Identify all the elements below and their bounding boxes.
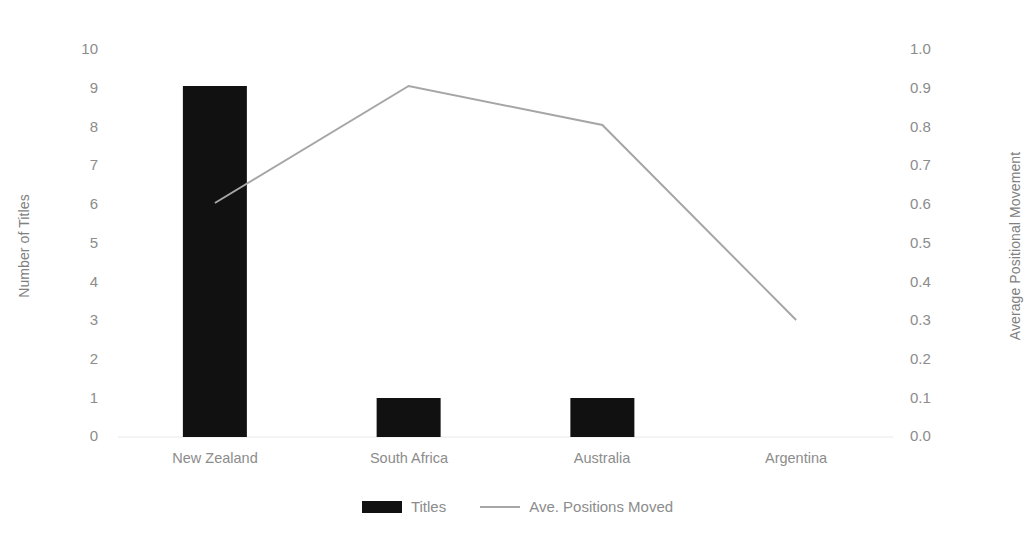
x-axis-tick-label: South Africa [370, 450, 448, 466]
bar [377, 398, 441, 437]
chart-legend: Titles Ave. Positions Moved [0, 498, 1035, 515]
y-right-tick: 0.4 [910, 274, 958, 289]
x-axis-tick-label: Argentina [765, 450, 827, 466]
y-right-tick: 1.0 [910, 41, 958, 56]
y-axis-right-ticks: 1.0 0.9 0.8 0.7 0.6 0.5 0.4 0.3 0.2 0.1 … [910, 0, 958, 535]
y-left-tick: 8 [58, 119, 98, 134]
bar [570, 398, 634, 437]
legend-item-ave-positions-moved[interactable]: Ave. Positions Moved [480, 498, 673, 515]
y-right-tick: 0.1 [910, 390, 958, 405]
legend-label: Ave. Positions Moved [529, 498, 673, 515]
y-right-tick: 0.5 [910, 235, 958, 250]
y-left-tick: 10 [58, 41, 98, 56]
y-axis-right-title: Average Positional Movement [1007, 106, 1023, 386]
y-left-tick: 5 [58, 235, 98, 250]
line-series-ave-positions-moved [215, 86, 796, 320]
y-right-tick: 0.8 [910, 119, 958, 134]
bar-series-titles [183, 86, 635, 437]
plot-area [118, 40, 893, 440]
legend-label: Titles [411, 498, 446, 515]
y-left-tick: 0 [58, 428, 98, 443]
y-right-tick: 0.2 [910, 351, 958, 366]
y-left-tick: 2 [58, 351, 98, 366]
y-axis-left-title: Number of Titles [16, 166, 32, 326]
y-left-tick: 3 [58, 312, 98, 327]
legend-line-swatch-icon [480, 501, 520, 513]
y-right-tick: 0.6 [910, 196, 958, 211]
y-right-tick: 0.0 [910, 428, 958, 443]
x-axis-labels: New Zealand South Africa Australia Argen… [118, 450, 893, 474]
y-right-tick: 0.9 [910, 80, 958, 95]
y-left-tick: 4 [58, 274, 98, 289]
y-left-tick: 7 [58, 157, 98, 172]
legend-item-titles[interactable]: Titles [362, 498, 446, 515]
bar [183, 86, 247, 437]
combo-chart: Number of Titles 10 9 8 7 6 5 4 3 2 1 0 … [0, 0, 1035, 535]
plot-svg [118, 40, 893, 440]
y-axis-left-ticks: 10 9 8 7 6 5 4 3 2 1 0 [58, 0, 98, 535]
y-right-tick: 0.7 [910, 157, 958, 172]
y-left-tick: 6 [58, 196, 98, 211]
x-axis-tick-label: New Zealand [172, 450, 257, 466]
y-left-tick: 1 [58, 390, 98, 405]
x-axis-tick-label: Australia [574, 450, 630, 466]
y-right-tick: 0.3 [910, 312, 958, 327]
y-left-tick: 9 [58, 80, 98, 95]
legend-bar-swatch-icon [362, 501, 402, 513]
